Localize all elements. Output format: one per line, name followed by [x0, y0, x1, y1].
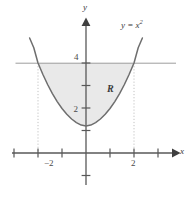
- y-axis-arrowhead: [82, 18, 91, 27]
- curve-equation-exponent: 2: [140, 18, 143, 25]
- parabola-region-figure: 2 x y y = x2 R −2 2 4: [0, 0, 193, 198]
- y-tick-label-2: 2: [74, 104, 79, 114]
- x-tick-label-pos2: 2: [131, 159, 136, 168]
- curve-equation-label: y = x2: [121, 19, 143, 30]
- x-tick-label-neg2: −2: [44, 159, 54, 168]
- graph-canvas: 2: [0, 0, 193, 198]
- y-axis-label: y: [83, 3, 87, 12]
- region-label-R: R: [107, 84, 114, 94]
- y-tick-label-4: 4: [74, 53, 79, 62]
- x-axis-label: x: [180, 147, 184, 156]
- curve-equation-base: y = x: [121, 20, 140, 30]
